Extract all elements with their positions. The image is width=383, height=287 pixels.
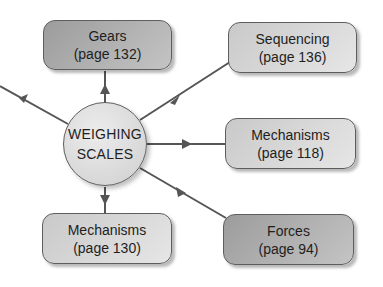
node-mechanisms-118: Mechanisms (page 118) — [225, 118, 356, 169]
node-page: (page 130) — [73, 239, 141, 257]
edge-to-sequencing — [140, 62, 230, 120]
node-title: Mechanisms — [251, 126, 330, 144]
hub-weighing-scales: WEIGHING SCALES — [63, 102, 147, 186]
node-title: Sequencing — [256, 30, 330, 48]
node-mechanisms-130: Mechanisms (page 130) — [42, 213, 172, 264]
hub-label-line1: WEIGHING — [68, 124, 142, 144]
node-page: (page 136) — [259, 48, 327, 66]
node-title: Forces — [267, 222, 310, 240]
arrowhead-icon — [182, 139, 192, 149]
node-title: Gears — [88, 27, 126, 45]
arrowhead-icon — [176, 187, 186, 197]
node-page: (page 118) — [257, 144, 324, 162]
node-sequencing: Sequencing (page 136) — [228, 22, 357, 73]
arrowhead-icon — [100, 195, 110, 205]
arrowhead-icon — [100, 84, 110, 94]
hub-label-line2: SCALES — [77, 144, 133, 164]
node-page: (page 94) — [259, 240, 319, 258]
edge-to-left — [0, 86, 68, 124]
node-gears: Gears (page 132) — [43, 20, 172, 70]
node-forces: Forces (page 94) — [223, 214, 354, 265]
node-page: (page 132) — [74, 45, 142, 63]
node-title: Mechanisms — [68, 221, 147, 239]
